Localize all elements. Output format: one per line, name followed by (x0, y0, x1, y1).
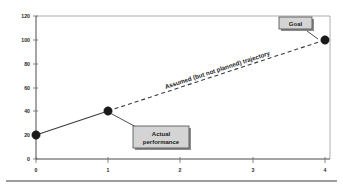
y-tick-label-80: 80 (24, 61, 30, 67)
x-tick-label-3: 3 (252, 167, 255, 173)
goal-leader-line (307, 31, 318, 39)
data-point-marker-2[interactable] (321, 36, 329, 44)
series-assumed-trajectory-line (108, 40, 325, 111)
actual-performance-callout-line1: Actual (152, 131, 171, 137)
y-tick-label-20: 20 (24, 132, 30, 138)
x-tick-label-0: 0 (35, 167, 38, 173)
data-point-marker-1[interactable] (104, 107, 112, 115)
x-tick-label-2: 2 (179, 167, 182, 173)
goal-callout-label: Goal (289, 21, 303, 27)
y-tick-label-40: 40 (24, 108, 30, 114)
line-chart: 0 20 40 60 80 100 120 0 1 2 3 4 Assumed … (0, 0, 343, 186)
x-tick-label-1: 1 (107, 167, 110, 173)
x-tick-label-4: 4 (324, 167, 327, 173)
y-tick-label-0: 0 (27, 156, 30, 162)
y-tick-label-60: 60 (24, 85, 30, 91)
series-actual-performance-line (36, 111, 108, 135)
y-tick-label-100: 100 (21, 37, 30, 43)
actual-performance-callout-line2: performance (143, 139, 180, 145)
data-point-marker-0[interactable] (32, 131, 40, 139)
y-tick-label-120: 120 (21, 13, 30, 19)
chart-figure: 0 20 40 60 80 100 120 0 1 2 3 4 Assumed … (0, 0, 343, 186)
trajectory-annotation-label: Assumed (but not planned) trajectory (164, 49, 271, 90)
